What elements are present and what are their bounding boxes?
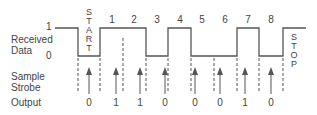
sample-strobe-label-line1: Sample — [11, 71, 45, 82]
sample-strobe-label-line2: Strobe — [11, 82, 45, 93]
start-letter: T — [84, 44, 94, 53]
output-label: Output — [11, 97, 41, 108]
output-value: 1 — [113, 97, 119, 108]
sample-strobe-arrows — [86, 67, 274, 94]
output-value: 1 — [242, 97, 248, 108]
bit-label-1: 1 — [109, 14, 115, 25]
sample-strobe-label: Sample Strobe — [11, 71, 45, 93]
stop-letter: P — [289, 60, 299, 69]
output-value: 1 — [137, 97, 143, 108]
bit-label-7: 7 — [245, 14, 251, 25]
level-high-label: 1 — [46, 21, 52, 32]
output-value: 0 — [217, 97, 223, 108]
output-value: 0 — [192, 97, 198, 108]
bit-label-5: 5 — [199, 14, 205, 25]
stop-label: S T O P — [289, 33, 299, 69]
bit-label-3: 3 — [154, 14, 160, 25]
output-value: 0 — [86, 97, 92, 108]
bit-label-8: 8 — [268, 14, 274, 25]
bit-label-2: 2 — [131, 14, 137, 25]
start-label: S T A R T — [84, 8, 94, 53]
bit-label-4: 4 — [177, 14, 183, 25]
bit-boundary-lines — [78, 38, 283, 93]
output-value: 0 — [162, 97, 168, 108]
received-data-label-line1: Received — [11, 34, 53, 45]
bit-label-6: 6 — [222, 14, 228, 25]
level-low-label: 0 — [46, 50, 52, 61]
output-value: 0 — [268, 97, 274, 108]
